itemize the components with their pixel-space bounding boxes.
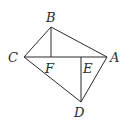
point-label-e: E <box>82 61 93 76</box>
point-label-d: D <box>73 105 85 120</box>
segments <box>24 27 107 102</box>
point-label-f: F <box>44 61 55 76</box>
segment-ba <box>51 27 107 57</box>
point-label-c: C <box>8 50 18 65</box>
geometry-diagram: ABCDEF <box>0 0 130 120</box>
point-label-a: A <box>109 50 119 65</box>
segment-cb <box>24 27 51 57</box>
point-label-b: B <box>45 10 56 25</box>
